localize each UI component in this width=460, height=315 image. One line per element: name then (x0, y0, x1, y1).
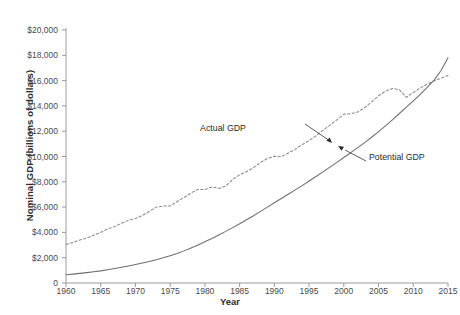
annotation-label-potential-gdp: Potential GDP (369, 152, 425, 162)
annotation-label-actual-gdp: Actual GDP (200, 123, 246, 133)
annotation-leader-line (345, 150, 366, 161)
series-line-potential-gdp (66, 58, 448, 275)
gdp-line-chart: Nominal GDP (billions of dollars) Year 0… (0, 0, 460, 315)
annotation-arrowhead (338, 146, 344, 151)
annotation-leader-line (305, 124, 330, 141)
annotation-arrowhead (326, 137, 332, 143)
